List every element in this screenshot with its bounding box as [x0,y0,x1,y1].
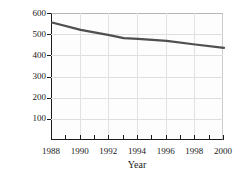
y-tick-label: 600 [33,9,47,18]
y-tick-label: 500 [33,30,47,39]
x-tick-label: 1990 [65,146,95,156]
x-tick-label: 1998 [179,146,209,156]
y-tick-mark [47,119,51,120]
x-tick-label: 2000 [208,146,237,156]
y-tick-mark [47,55,51,56]
x-tick-label: 1994 [122,146,152,156]
y-tick-mark [47,98,51,99]
y-tick-label: 400 [33,51,47,60]
y-tick-mark [47,77,51,78]
data-line-svg [52,14,224,141]
y-tick-mark [47,34,51,35]
y-tick-label: 300 [33,72,47,81]
x-axis-title: Year [51,159,223,170]
consumption-trend-line [52,23,224,48]
x-tick-label: 1992 [93,146,123,156]
x-tick-label: 1988 [36,146,66,156]
cigarette-consumption-chart: Cigarettes Consumed (billions) 600500400… [0,0,237,175]
y-tick-mark [47,13,51,14]
y-tick-label: 200 [33,93,47,102]
y-tick-label: 100 [33,114,47,123]
x-tick-label: 1996 [151,146,181,156]
